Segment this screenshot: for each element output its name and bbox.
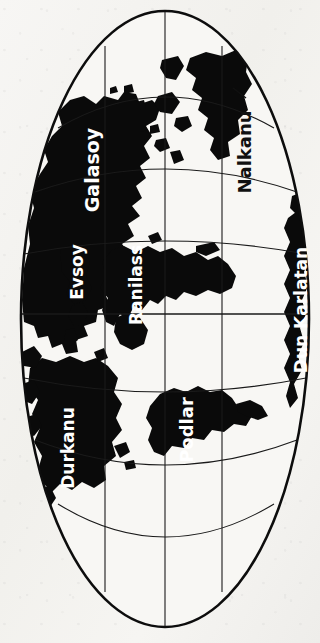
map-label-nalkanu: Nalkanu — [234, 110, 255, 193]
map-label-ranilass: Ranilass — [126, 245, 146, 325]
map-label-galasoy: Galasoy — [81, 127, 103, 212]
map-label-durkanu: Durkanu — [58, 407, 78, 489]
map-canvas: Galasoy Evsoy Ranilass Nalkanu Dun Karla… — [0, 0, 320, 643]
map-label-dun-karlatan: Dun Karlatan — [291, 247, 311, 373]
world-map-figure: Galasoy Evsoy Ranilass Nalkanu Dun Karla… — [0, 0, 320, 643]
map-label-evsoy: Evsoy — [67, 244, 87, 300]
map-label-podlar: Podlar — [176, 397, 197, 463]
